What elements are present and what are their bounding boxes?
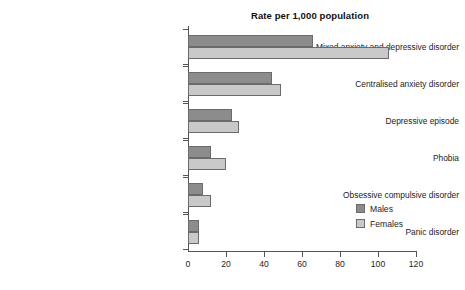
value-tick-label: 60 (297, 259, 307, 269)
value-tick-label: 20 (221, 259, 231, 269)
bar-row (188, 195, 211, 207)
category-tick (183, 29, 189, 30)
value-tick (416, 252, 417, 257)
bar-females-2 (188, 121, 239, 133)
value-tick (340, 252, 341, 257)
bar-row (188, 220, 199, 232)
males-swatch-icon (356, 204, 365, 213)
category-label: Centralised anxiety disorder (287, 79, 465, 89)
legend-label: Males (370, 204, 393, 214)
category-tick (183, 249, 189, 250)
bar-females-3 (188, 158, 226, 170)
bar-row (188, 72, 272, 84)
value-tick-label: 120 (409, 259, 423, 269)
category-tick (183, 64, 189, 65)
category-tick (183, 212, 189, 213)
females-swatch-icon (356, 219, 365, 228)
category-tick (183, 66, 189, 67)
legend-item-females[interactable]: Females (356, 217, 403, 230)
category-tick (183, 103, 189, 104)
bar-row (188, 35, 313, 47)
bar-row (188, 232, 199, 244)
value-tick-label: 0 (186, 259, 191, 269)
category-tick (183, 140, 189, 141)
bar-females-0 (188, 47, 389, 59)
bar-females-5 (188, 232, 199, 244)
value-tick (378, 252, 379, 257)
category-tick (183, 101, 189, 102)
category-label: Obsessive compulsive disorder (287, 190, 465, 200)
category-label: Depressive episode (287, 116, 465, 126)
legend-label: Females (370, 219, 403, 229)
bar-row (188, 146, 211, 158)
bar-row (188, 109, 232, 121)
category-tick (183, 175, 189, 176)
category-tick (183, 214, 189, 215)
bar-chart: Rate per 1,000 population Mixed anxiety … (0, 0, 465, 290)
bar-males-5 (188, 220, 199, 232)
bar-males-1 (188, 72, 272, 84)
value-tick (226, 252, 227, 257)
bar-females-4 (188, 195, 211, 207)
bar-females-1 (188, 84, 281, 96)
value-tick (302, 252, 303, 257)
value-tick (264, 252, 265, 257)
category-tick (183, 177, 189, 178)
value-tick-label: 40 (259, 259, 269, 269)
category-label: Phobia (287, 153, 465, 163)
bar-males-0 (188, 35, 313, 47)
chart-legend: MalesFemales (356, 202, 403, 232)
bar-males-3 (188, 146, 211, 158)
bar-row (188, 183, 203, 195)
value-tick-label: 100 (371, 259, 385, 269)
bar-row (188, 121, 239, 133)
value-tick-label: 80 (335, 259, 345, 269)
bar-males-4 (188, 183, 203, 195)
bar-row (188, 84, 281, 96)
bar-row (188, 47, 389, 59)
category-tick (183, 138, 189, 139)
chart-title: Rate per 1,000 population (190, 10, 430, 21)
legend-item-males[interactable]: Males (356, 202, 403, 215)
bar-row (188, 158, 226, 170)
bar-males-2 (188, 109, 232, 121)
